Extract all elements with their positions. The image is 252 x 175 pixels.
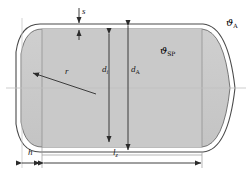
vessel-cross-section-diagram: s r di dA ϑSP ϑA h [0,0,252,175]
label-temperature-ambient: ϑA [226,17,238,29]
label-cap-height: h [28,147,33,157]
label-wall-thickness: s [82,6,86,16]
label-radius: r [65,66,69,76]
svg-text:ϑA: ϑA [226,17,238,29]
figure-canvas: s r di dA ϑSP ϑA h [0,0,252,175]
